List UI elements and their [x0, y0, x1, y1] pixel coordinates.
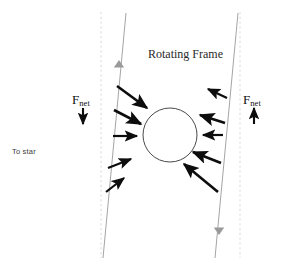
up-triangle-icon: [114, 60, 124, 68]
central-body-circle: [143, 108, 197, 162]
force-arrow-right-2: [200, 115, 225, 123]
tidal-force-diagram: Rotating Frame To star Fnet Fnet: [0, 0, 286, 270]
force-arrow-right-4: [193, 152, 221, 163]
force-arrow-right-1: [208, 89, 227, 98]
rotating-frame-label: Rotating Frame: [148, 47, 223, 62]
force-arrow-group-left: [106, 86, 147, 192]
force-arrow-group-right: [184, 89, 227, 192]
down-triangle-icon: [214, 228, 224, 236]
force-arrow-left-2: [114, 110, 141, 124]
fnet-right-subscript: net: [250, 98, 261, 108]
fnet-left-label: Fnet: [72, 92, 90, 108]
force-arrow-left-5: [106, 178, 124, 192]
to-star-label: To star: [12, 147, 36, 156]
diagram-canvas: [0, 0, 286, 270]
force-arrow-left-1: [117, 86, 147, 108]
force-arrow-right-5: [184, 164, 218, 192]
fnet-right-label: Fnet: [243, 92, 261, 108]
fnet-left-subscript: net: [79, 98, 90, 108]
